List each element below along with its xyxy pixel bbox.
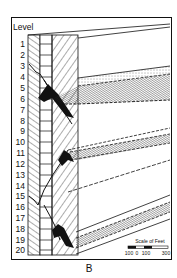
- level-number: 12: [16, 159, 26, 169]
- level-number: 14: [16, 181, 26, 191]
- shaft-column: [40, 35, 52, 255]
- level-number: 10: [16, 137, 26, 147]
- level-number: 4: [20, 72, 25, 82]
- level-number: 13: [16, 170, 26, 180]
- panel-label: B: [86, 263, 93, 274]
- scale-tick: 300: [162, 250, 171, 256]
- level-number: 3: [20, 61, 25, 71]
- fault-line-middle: [68, 160, 170, 192]
- footwall-hatched-column: [28, 35, 40, 255]
- geologic-cross-section: Level 1 2 3 4 5 6 7 8 9 10 11 12 13 14 1…: [0, 0, 177, 278]
- level-number: 2: [20, 50, 25, 60]
- hangingwall-hatched-column: [52, 35, 78, 255]
- level-number: 5: [20, 83, 25, 93]
- scale-bar-title: Scale of Feet: [135, 238, 165, 244]
- level-number: 11: [16, 148, 25, 158]
- level-number: 1: [20, 39, 25, 49]
- level-number: 7: [20, 105, 25, 115]
- ore-band-lower: [76, 195, 170, 254]
- ore-band-middle: [68, 128, 170, 160]
- level-number: 19: [16, 235, 26, 245]
- scale-tick: 0: [136, 250, 139, 256]
- level-axis-title: Level: [13, 22, 33, 32]
- level-number: 16: [16, 202, 26, 212]
- level-number: 20: [16, 245, 26, 255]
- level-number-list: 1 2 3 4 5 6 7 8 9 10 11 12 13 14 15 16 1…: [16, 39, 26, 255]
- level-number: 6: [20, 94, 25, 104]
- level-number: 17: [16, 213, 26, 223]
- level-number: 15: [16, 191, 26, 201]
- level-number: 8: [20, 116, 25, 126]
- scale-bar: Scale of Feet 100 0 100 300: [125, 238, 171, 256]
- scale-tick: 100: [142, 250, 151, 256]
- level-number: 9: [20, 126, 25, 136]
- scale-tick: 100: [125, 250, 134, 256]
- level-number: 18: [16, 224, 26, 234]
